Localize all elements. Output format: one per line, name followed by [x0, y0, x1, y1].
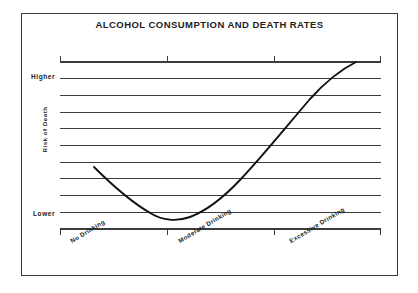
- gridlines: [60, 62, 381, 229]
- plot-area: [0, 0, 418, 293]
- chart-figure: ALCOHOL CONSUMPTION AND DEATH RATES Risk…: [0, 0, 418, 293]
- risk-curve: [94, 62, 356, 220]
